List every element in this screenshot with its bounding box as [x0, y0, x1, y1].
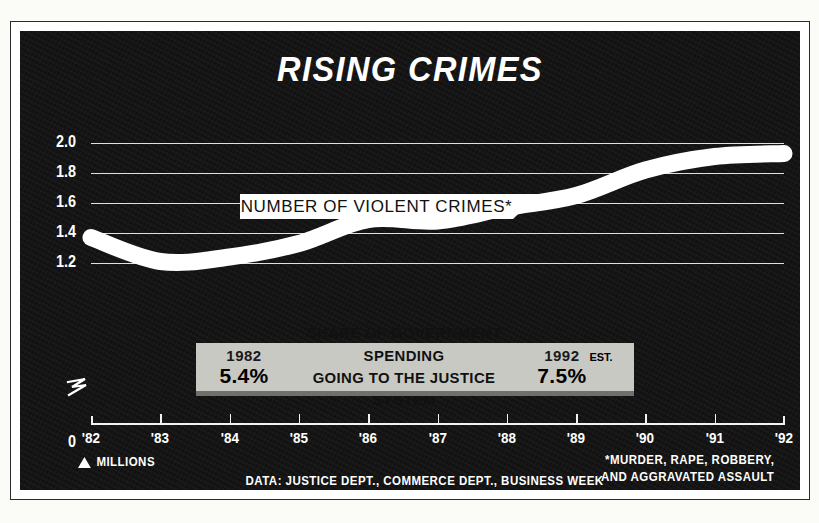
chart-screenshot: RISING CRIMES 2.01.81.61.41.20 '82'83'84…: [0, 0, 819, 523]
callout-description-line1: SHARE OF GOVERNMENT SPENDING: [296, 322, 511, 367]
callout-left: 1982 5.4%: [196, 347, 292, 387]
callout-right-suffix: EST.: [589, 351, 612, 363]
footnote: *MURDER, RAPE, ROBBERY, AND AGGRAVATED A…: [586, 453, 774, 484]
series-label-box: NUMBER OF VIOLENT CRIMES*: [240, 194, 513, 219]
series-label-text: NUMBER OF VIOLENT CRIMES*: [241, 197, 513, 217]
callout-left-value: 5.4%: [219, 364, 268, 387]
footnote-line2: AND AGGRAVATED ASSAULT: [601, 470, 774, 484]
callout-description-line2: GOING TO THE JUSTICE SYSTEM: [296, 367, 511, 412]
callout-left-year: 1982: [226, 347, 261, 364]
callout-right-value: 7.5%: [537, 364, 586, 387]
callout-right: 1992 7.5% EST.: [516, 347, 634, 387]
spending-callout: 1982 5.4% SHARE OF GOVERNMENT SPENDING G…: [196, 343, 634, 391]
plot-area: 2.01.81.61.41.20 '82'83'84'85'86'87'88'8…: [20, 31, 800, 490]
footnote-line1: *MURDER, RAPE, ROBBERY,: [601, 453, 774, 467]
callout-description: SHARE OF GOVERNMENT SPENDING GOING TO TH…: [296, 322, 511, 412]
series-label-tail: [513, 194, 539, 219]
units-legend: MILLIONS: [78, 455, 155, 469]
units-label: MILLIONS: [96, 455, 155, 469]
triangle-icon: [78, 457, 91, 468]
source-note: DATA: JUSTICE DEPT., COMMERCE DEPT., BUS…: [246, 474, 604, 488]
callout-right-year: 1992: [544, 347, 579, 364]
chart-panel: RISING CRIMES 2.01.81.61.41.20 '82'83'84…: [20, 31, 800, 490]
violent-crimes-line: [20, 31, 800, 490]
